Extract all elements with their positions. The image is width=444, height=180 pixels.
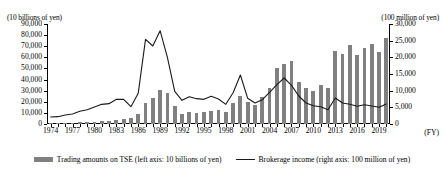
x-axis-tick-label: 2004 (262, 126, 277, 135)
x-axis-tick (102, 124, 103, 127)
left-axis-tick-label: 50,000 (21, 64, 42, 72)
x-axis-tick-label: 2007 (284, 126, 299, 135)
x-axis-tick-label: 1986 (131, 126, 146, 135)
left-axis-tick-label: 30,000 (21, 87, 42, 95)
x-axis-tick-label: 1989 (153, 126, 168, 135)
brokerage-income-line (51, 31, 387, 117)
right-axis-tick-label: 10,000 (395, 87, 416, 95)
x-axis-tick (277, 124, 278, 127)
x-axis-tick-label: 1983 (109, 126, 124, 135)
bar-swatch-icon (34, 157, 53, 162)
x-axis-unit-label: (FY) (424, 128, 439, 137)
x-axis-tick-label: 1974 (43, 126, 58, 135)
line-swatch-icon (236, 159, 255, 160)
x-axis-tick-label: 2019 (371, 126, 386, 135)
left-axis-tick-label: 90,000 (21, 20, 42, 28)
right-axis-tick-label: 20,000 (395, 53, 416, 61)
x-axis-tick (124, 124, 125, 127)
right-axis-tick (390, 107, 393, 108)
x-axis-tick-label: 1992 (174, 126, 189, 135)
x-axis-tick (189, 124, 190, 127)
plot-area: 90,00080,00070,00060,00050,00040,00030,0… (47, 24, 390, 124)
legend-item-line: Brokerage income (right axis: 100 millio… (236, 155, 411, 164)
right-axis-tick (390, 41, 393, 42)
legend-label-bar: Trading amounts on TSE (left axis: 10 bi… (57, 155, 222, 164)
x-axis-tick-label: 1998 (218, 126, 233, 135)
chart-container: (10 billions of yen) (100 million of yen… (0, 0, 444, 180)
left-axis-tick-label: 40,000 (21, 76, 42, 84)
x-axis-tick (321, 124, 322, 127)
right-axis-tick (390, 91, 393, 92)
x-axis-tick (80, 124, 81, 127)
right-axis-tick-label: 30,000 (395, 20, 416, 28)
left-axis-tick (44, 124, 47, 125)
x-axis-tick (167, 124, 168, 127)
chart-legend: Trading amounts on TSE (left axis: 10 bi… (0, 155, 444, 164)
right-axis-tick-label: 5,000 (395, 103, 412, 111)
x-axis-tick (255, 124, 256, 127)
x-axis-tick (233, 124, 234, 127)
left-axis-tick-label: 10,000 (21, 109, 42, 117)
x-axis-tick-label: 2010 (306, 126, 321, 135)
x-axis-tick-label: 1995 (196, 126, 211, 135)
x-axis-tick-label: 2001 (240, 126, 255, 135)
left-axis-tick-label: 80,000 (21, 31, 42, 39)
left-axis-tick-label: 70,000 (21, 42, 42, 50)
legend-label-line: Brokerage income (right axis: 100 millio… (259, 155, 411, 164)
x-axis-tick-label: 2016 (350, 126, 365, 135)
x-axis-tick (58, 124, 59, 127)
x-axis-tick (343, 124, 344, 127)
x-axis-tick (146, 124, 147, 127)
x-axis-tick (364, 124, 365, 127)
right-axis-tick (390, 124, 393, 125)
legend-item-bar: Trading amounts on TSE (left axis: 10 bi… (34, 155, 222, 164)
x-axis-tick-label: 1977 (65, 126, 80, 135)
x-axis-tick (386, 124, 387, 127)
right-axis-tick (390, 24, 393, 25)
right-axis-tick-label: 25,000 (395, 37, 416, 45)
x-axis-tick-label: 2013 (328, 126, 343, 135)
right-axis-tick (390, 74, 393, 75)
x-axis-tick (299, 124, 300, 127)
right-axis-tick-label: 0 (395, 120, 399, 128)
right-axis-tick-label: 15,000 (395, 70, 416, 78)
x-axis-tick-label: 1980 (87, 126, 102, 135)
left-axis-tick-label: 20,000 (21, 98, 42, 106)
left-axis-tick-label: 0 (38, 120, 42, 128)
line-series (47, 24, 390, 124)
left-axis-tick-label: 60,000 (21, 53, 42, 61)
x-axis-tick (211, 124, 212, 127)
right-axis-tick (390, 57, 393, 58)
